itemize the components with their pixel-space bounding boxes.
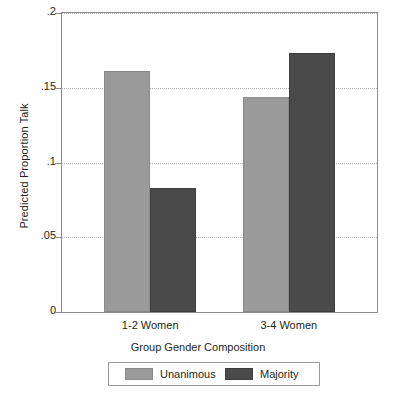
bar-unanimous-3-4-women [243,97,289,312]
bar-unanimous-1-2-women [104,71,150,312]
chart-legend: Unanimous Majority [108,362,320,386]
x-category-label-1-2-women: 1-2 Women [90,319,210,331]
legend-swatch-majority-icon [225,368,253,380]
x-category-label-3-4-women: 3-4 Women [229,319,349,331]
y-tick-label-0.05: .05 [8,230,56,241]
bar-majority-1-2-women [150,188,196,312]
y-tick-label-0.2: .2 [8,6,56,17]
x-axis-title: Group Gender Composition [0,341,396,353]
y-tick-label-0: 0 [8,305,56,316]
y-tick-label-0.15: .15 [8,81,56,92]
legend-swatch-unanimous-icon [125,368,153,380]
legend-entry-unanimous: Unanimous [125,363,216,385]
legend-label-unanimous: Unanimous [160,368,216,380]
legend-label-majority: Majority [260,368,299,380]
bar-chart-figure: Predicted Proportion Talk .2 .15 .1 .05 … [0,0,396,398]
bar-majority-3-4-women [289,53,335,312]
legend-entry-majority: Majority [225,363,299,385]
y-tick-label-0.1: .1 [8,156,56,167]
plot-area [61,12,378,313]
gridline-0.2 [62,13,377,14]
